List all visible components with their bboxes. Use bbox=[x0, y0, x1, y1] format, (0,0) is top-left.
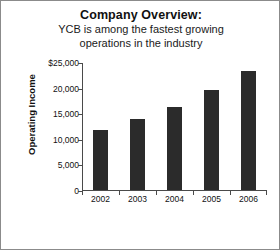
y-axis-tick-label: 5,000 bbox=[58, 160, 79, 170]
bar bbox=[167, 107, 182, 190]
bar bbox=[130, 119, 145, 190]
x-axis-line bbox=[82, 190, 267, 191]
bar-chart: Operating Income 05,00010,00015,00020,00… bbox=[13, 63, 269, 213]
page-title: Company Overview: bbox=[1, 8, 280, 23]
y-axis-tick bbox=[78, 140, 82, 141]
y-axis-tick bbox=[78, 165, 82, 166]
bar bbox=[204, 90, 219, 190]
y-axis-tick-label: 20,000 bbox=[53, 84, 79, 94]
y-axis-tick bbox=[78, 63, 82, 64]
x-axis-tick-labels: 20022003200420052006 bbox=[82, 194, 267, 208]
subtitle-line-1: YCB is among the fastest growing bbox=[1, 23, 280, 37]
slide-canvas: Company Overview: YCB is among the faste… bbox=[0, 0, 280, 250]
y-axis-tick-label: 10,000 bbox=[53, 135, 79, 145]
title-block: Company Overview: YCB is among the faste… bbox=[1, 8, 280, 50]
x-axis-tick-label: 2005 bbox=[202, 194, 221, 204]
bar-series bbox=[82, 63, 267, 190]
y-axis-tick-label: 15,000 bbox=[53, 109, 79, 119]
y-axis-tick-labels: 05,00010,00015,00020,000$25,000 bbox=[33, 63, 79, 191]
y-axis-tick-label: $25,000 bbox=[48, 58, 79, 68]
y-axis-tick bbox=[78, 89, 82, 90]
x-axis-tick-label: 2006 bbox=[239, 194, 258, 204]
subtitle-line-2: operations in the industry bbox=[1, 37, 280, 51]
x-axis-tick-label: 2003 bbox=[128, 194, 147, 204]
y-axis-tick bbox=[78, 114, 82, 115]
bar bbox=[241, 71, 256, 190]
bar bbox=[93, 130, 108, 190]
x-axis-tick-label: 2004 bbox=[165, 194, 184, 204]
chart-axes bbox=[82, 63, 267, 191]
x-axis-tick-label: 2002 bbox=[91, 194, 110, 204]
